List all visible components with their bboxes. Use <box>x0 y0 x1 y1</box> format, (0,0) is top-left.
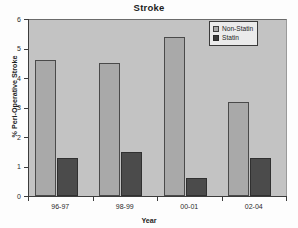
legend-label-statin: Statin <box>222 33 239 42</box>
x-axis-tick-label: 98-99 <box>95 203 155 210</box>
legend-label-non-statin: Non-Statin <box>222 24 253 33</box>
bar-non-statin-96-97 <box>35 60 56 196</box>
y-axis-tick-label: 1 <box>8 163 21 170</box>
y-axis-tick-label: 6 <box>8 16 21 23</box>
bar-non-statin-98-99 <box>99 63 120 196</box>
x-axis-tick-label: 00-01 <box>159 203 219 210</box>
y-axis-tick-label: 0 <box>8 193 21 200</box>
x-axis-tick <box>157 197 158 201</box>
chart-title: Stroke <box>0 2 298 13</box>
bar-non-statin-02-04 <box>228 102 249 196</box>
x-axis-tick <box>28 197 29 201</box>
legend: Non-Statin Statin <box>209 21 258 46</box>
x-axis-tick <box>93 197 94 201</box>
legend-swatch-non-statin <box>213 26 219 32</box>
x-axis-tick-label: 96-97 <box>30 203 90 210</box>
bar-statin-00-01 <box>186 178 207 196</box>
chart-figure: Stroke 0123456 % Peri-Operative Stroke 9… <box>0 0 298 228</box>
bar-statin-96-97 <box>57 158 78 196</box>
x-axis-tick <box>286 197 287 201</box>
legend-item-non-statin: Non-Statin <box>213 24 253 33</box>
x-axis-tick-label: 02-04 <box>224 203 284 210</box>
y-axis-title: % Peri-Operative Stroke <box>10 32 19 162</box>
bar-statin-98-99 <box>121 152 142 196</box>
bar-group <box>28 19 93 196</box>
x-axis-tick <box>222 197 223 201</box>
bar-statin-02-04 <box>250 158 271 196</box>
bar-non-statin-00-01 <box>164 37 185 196</box>
legend-item-statin: Statin <box>213 33 253 42</box>
bar-group <box>93 19 158 196</box>
x-axis-title: Year <box>0 216 298 225</box>
legend-swatch-statin <box>213 35 219 41</box>
